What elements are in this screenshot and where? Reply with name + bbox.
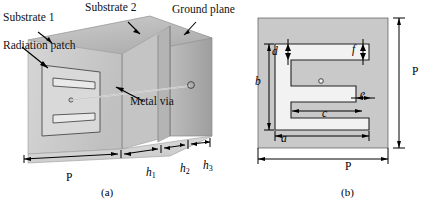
label-radiation-patch: Radiation patch	[3, 40, 76, 52]
radiation-patch-3d	[42, 65, 100, 136]
dim-label-P-right: P	[412, 66, 418, 78]
dim-P-horizontal	[258, 148, 388, 164]
dim-P-vertical	[393, 18, 405, 148]
dim-label-a: a	[281, 133, 287, 145]
antenna-unit-cell-figure: Substrate 1 Substrate 2 Ground plane Rad…	[0, 0, 430, 202]
dim-label-h3: h3	[203, 160, 213, 173]
dim-label-d: d	[272, 46, 278, 58]
panel-b-caption: (b)	[341, 186, 354, 198]
panel-a-3d-view	[0, 8, 225, 183]
label-substrate-1: Substrate 1	[3, 12, 54, 24]
label-substrate-2: Substrate 2	[85, 2, 136, 14]
label-metal-via: Metal via	[130, 96, 174, 108]
dim-label-h2: h2	[180, 163, 190, 176]
dim-label-P-bottom: P	[345, 161, 351, 173]
dim-label-P-depth: P	[66, 172, 72, 184]
panel-b-top-view	[225, 6, 430, 186]
dim-label-f: f	[352, 44, 355, 56]
panel-a-caption: (a)	[101, 186, 113, 198]
via-hole-top-view	[319, 79, 324, 84]
dim-label-b: b	[255, 76, 261, 88]
substrate-3-face	[158, 26, 170, 142]
dim-label-c: c	[322, 108, 327, 120]
dim-label-e: e	[360, 89, 365, 101]
dim-label-h1: h1	[146, 167, 156, 180]
